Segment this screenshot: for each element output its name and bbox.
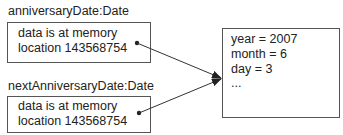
pointer-arrow-anniversary [137, 43, 221, 78]
pointer-arrows [0, 0, 343, 135]
pointer-arrow-next-anniversary [139, 79, 221, 113]
